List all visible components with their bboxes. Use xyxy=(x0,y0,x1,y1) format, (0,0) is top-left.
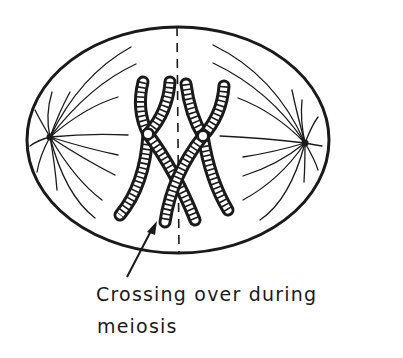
right-spindle-pole xyxy=(302,140,309,147)
crossover-chromatids xyxy=(148,134,203,222)
left-centromere xyxy=(143,129,153,139)
left-spindle-pole xyxy=(47,134,54,141)
equator-dashed-line xyxy=(177,27,179,252)
right-spindle-fibers xyxy=(213,45,322,220)
caption-line-2: meiosis xyxy=(97,315,178,337)
caption-line-1: Crossing over during xyxy=(96,283,317,305)
right-centromere xyxy=(198,131,208,141)
